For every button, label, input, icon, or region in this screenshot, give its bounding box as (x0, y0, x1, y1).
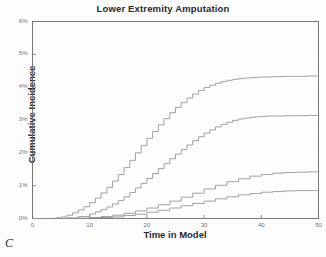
x-tick-label: 30 (194, 222, 214, 228)
plot-area (0, 0, 326, 257)
series-lines (33, 76, 319, 219)
y-tick-label: 5% (6, 50, 28, 56)
x-tick-label: 50 (309, 222, 326, 228)
x-tick-label: 0 (23, 222, 43, 228)
y-tick-label: 4% (6, 83, 28, 89)
tick-marks (33, 22, 319, 219)
figure-panel: Lower Extremity Amputation Cumulative In… (0, 0, 326, 257)
y-tick-label: 3% (6, 116, 28, 122)
y-tick-label: 2% (6, 149, 28, 155)
x-tick-label: 40 (251, 222, 271, 228)
y-tick-label: 1% (6, 182, 28, 188)
x-tick-label: 20 (137, 222, 157, 228)
y-tick-label: 0% (6, 215, 28, 221)
x-tick-label: 10 (80, 222, 100, 228)
axis-frame (33, 22, 319, 219)
y-tick-label: 6% (6, 18, 28, 24)
